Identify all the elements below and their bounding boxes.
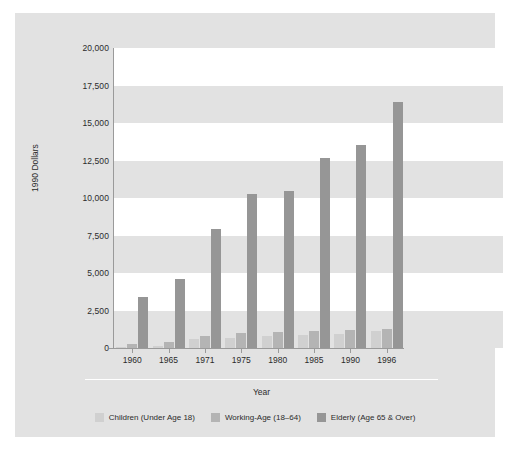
x-axis-rule [85, 379, 438, 380]
x-axis-tick-mark [314, 349, 315, 353]
x-axis-tick-mark [241, 349, 242, 353]
bar [225, 338, 235, 349]
y-axis-tick-label: 5,000 [49, 268, 109, 278]
bar [382, 329, 392, 349]
x-axis-tick-mark [205, 349, 206, 353]
bar [393, 102, 403, 348]
y-axis-tick-label: 17,500 [49, 81, 109, 91]
x-axis-tick-mark [169, 349, 170, 353]
x-axis-tick-mark [387, 349, 388, 353]
x-axis-line [113, 348, 404, 349]
y-axis-tick-label: 0 [49, 343, 109, 353]
bar-group [150, 48, 186, 348]
bar [334, 334, 344, 348]
bar [247, 194, 257, 348]
bar-group [332, 48, 368, 348]
bar-group [369, 48, 405, 348]
y-axis-tick-labels: 02,5005,0007,50010,00012,50015,00017,500… [43, 13, 109, 437]
bar [211, 229, 221, 348]
bar [262, 336, 272, 348]
legend-swatch-icon [211, 413, 220, 422]
bar-group [187, 48, 223, 348]
legend-item: Elderly (Age 65 & Over) [317, 413, 415, 422]
legend-item-label: Children (Under Age 18) [109, 413, 195, 422]
legend-swatch-icon [95, 413, 104, 422]
bar [138, 297, 148, 348]
y-axis-tick-mark [109, 348, 113, 349]
y-axis-tick-label: 12,500 [49, 156, 109, 166]
y-axis-tick-label: 20,000 [49, 43, 109, 53]
bar [320, 158, 330, 349]
bar [371, 331, 381, 348]
x-axis-title: Year [85, 387, 438, 397]
x-axis-tick-mark [278, 349, 279, 353]
legend-swatch-icon [317, 413, 326, 422]
legend-item-label: Working-Age (18–64) [225, 413, 301, 422]
legend-item-label: Elderly (Age 65 & Over) [331, 413, 415, 422]
y-axis-line [113, 48, 114, 349]
plot-area [114, 48, 503, 348]
bar [284, 191, 294, 349]
legend-item: Working-Age (18–64) [211, 413, 301, 422]
bar [345, 330, 355, 348]
y-axis-tick-label: 2,500 [49, 306, 109, 316]
y-axis-tick-label: 15,000 [49, 118, 109, 128]
bar [236, 333, 246, 348]
bar [298, 335, 308, 348]
bar [356, 145, 366, 348]
bar-group [114, 48, 150, 348]
x-axis-tick-label: 1996 [357, 355, 417, 365]
bar-group [260, 48, 296, 348]
x-axis-tick-mark [132, 349, 133, 353]
x-axis-tick-mark [350, 349, 351, 353]
bar [189, 339, 199, 348]
bar [309, 331, 319, 348]
bar [273, 332, 283, 349]
chart-legend: Children (Under Age 18)Working-Age (18–6… [15, 413, 495, 422]
y-axis-tick-label: 10,000 [49, 193, 109, 203]
legend-item: Children (Under Age 18) [95, 413, 195, 422]
bars-layer [114, 48, 503, 348]
bar [175, 279, 185, 348]
bar [200, 336, 210, 348]
bar-group [223, 48, 259, 348]
chart-figure: 02,5005,0007,50010,00012,50015,00017,500… [15, 13, 495, 437]
bar-group [296, 48, 332, 348]
y-axis-title: 1990 Dollars [30, 118, 40, 218]
y-axis-tick-label: 7,500 [49, 231, 109, 241]
